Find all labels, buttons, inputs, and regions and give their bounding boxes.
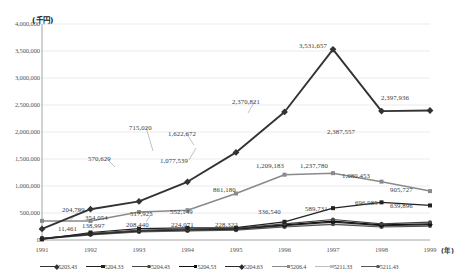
legend-item-5204.43[interactable]: 5204.43 — [132, 264, 169, 270]
legend-label: 5204.53 — [197, 264, 216, 270]
data-point-label: 861,180 — [213, 186, 236, 193]
legend-item-5211.43[interactable]: 5211.43 — [361, 264, 398, 270]
data-point-marker — [380, 222, 384, 226]
legend-line-swatch — [40, 266, 55, 267]
legend-label: 5204.33 — [105, 264, 124, 270]
legend-line-swatch — [272, 266, 287, 267]
legend-item-5204.53[interactable]: 5204.53 — [179, 264, 216, 270]
legend-label: 5204.63 — [244, 264, 263, 270]
data-point-label: 354,054 — [85, 214, 108, 221]
y-axis-tick-label: 4,000,000 — [0, 20, 40, 27]
legend-line-swatch — [179, 266, 194, 267]
legend-line-swatch — [86, 266, 101, 267]
y-axis-tick-label: 1,500,000 — [0, 155, 40, 162]
data-point-label: 639,896 — [390, 202, 413, 209]
data-point-marker — [283, 220, 287, 224]
data-point-label: 517,925 — [130, 210, 153, 217]
data-point-marker — [428, 220, 432, 224]
data-point-marker — [380, 200, 384, 204]
legend-label: 5211.43 — [380, 264, 399, 270]
legend-label: 5211.33 — [334, 264, 353, 270]
data-point-marker — [380, 180, 384, 184]
legend-label: 5206.4 — [290, 264, 306, 270]
x-axis-tick-label: 1991 — [22, 246, 62, 253]
x-axis-tick-label: 1993 — [119, 246, 159, 253]
data-point-marker — [87, 206, 94, 213]
y-axis-tick-label: 2,000,000 — [0, 128, 40, 135]
data-point-marker — [89, 230, 93, 234]
data-point-marker — [427, 107, 434, 114]
x-axis-tick-label: 1998 — [362, 246, 402, 253]
x-axis-tick-label: 1996 — [265, 246, 305, 253]
x-axis-unit-label: (年) — [441, 245, 454, 255]
y-axis-tick-label: 3,000,000 — [0, 74, 40, 81]
data-point-label: 2,387,557 — [327, 128, 355, 135]
x-axis-tick-label: 1997 — [313, 246, 353, 253]
data-point-label: 552,149 — [170, 208, 193, 215]
data-point-label: 1,209,183 — [256, 162, 284, 169]
y-axis-tick-label: 0 — [0, 236, 40, 243]
legend-item-5204.33[interactable]: 5204.33 — [86, 264, 123, 270]
legend-label: 5204.43 — [151, 264, 170, 270]
legend-item-5206.4[interactable]: 5206.4 — [272, 264, 307, 270]
legend-line-swatch — [225, 266, 240, 267]
data-point-label: 208,440 — [126, 221, 149, 228]
legend-line-swatch — [361, 266, 376, 267]
data-point-label: 224,071 — [171, 221, 194, 228]
x-axis-tick-label: 1994 — [168, 246, 208, 253]
legend-line-swatch — [315, 266, 330, 267]
data-point-label: 3,531,657 — [299, 42, 327, 49]
data-point-marker — [136, 198, 143, 205]
data-point-marker — [283, 173, 287, 177]
chart-legend: 5203.435204.335204.435204.535204.635206.… — [0, 260, 438, 273]
data-point-label: 2,397,936 — [381, 94, 409, 101]
legend-item-5204.63[interactable]: 5204.63 — [225, 264, 262, 270]
data-point-label: 336,540 — [258, 208, 281, 215]
data-point-marker — [428, 189, 432, 193]
label-leader-line — [189, 148, 196, 160]
data-point-label: 715,020 — [129, 124, 152, 131]
legend-line-swatch — [132, 266, 147, 267]
data-point-marker — [331, 206, 335, 210]
legend-item-5203.43[interactable]: 5203.43 — [40, 264, 77, 270]
data-point-marker — [40, 237, 44, 241]
data-point-marker — [428, 203, 432, 207]
data-point-marker — [331, 217, 335, 221]
data-point-label: 11,461 — [58, 225, 77, 232]
data-point-label: 570,629 — [88, 155, 111, 162]
x-axis-tick-label: 1995 — [216, 246, 256, 253]
y-axis-tick-label: 1,000,000 — [0, 182, 40, 189]
x-axis-tick-label: 1992 — [71, 246, 111, 253]
data-point-label: 696,985 — [355, 199, 378, 206]
data-point-label: 204,799 — [62, 206, 85, 213]
data-point-label: 1,080,453 — [342, 172, 370, 179]
data-point-label: 1,622,672 — [168, 130, 196, 137]
data-point-label: 589,731 — [305, 205, 328, 212]
legend-label: 5203.43 — [58, 264, 77, 270]
y-axis-tick-label: 2,500,000 — [0, 101, 40, 108]
data-point-label: 228,322 — [215, 221, 238, 228]
data-point-marker — [40, 219, 44, 223]
y-axis-tick-label: 500,000 — [0, 209, 40, 216]
data-point-marker — [331, 171, 335, 175]
data-point-marker — [39, 226, 46, 233]
data-point-label: 1,077,539 — [160, 157, 188, 164]
legend-item-5211.33[interactable]: 5211.33 — [315, 264, 352, 270]
data-point-label: 138,997 — [82, 222, 105, 229]
data-point-label: 2,370,821 — [232, 98, 260, 105]
y-axis-tick-label: 3,500,000 — [0, 47, 40, 54]
data-point-label: 1,237,780 — [300, 162, 328, 169]
data-point-label: 905,727 — [390, 186, 413, 193]
